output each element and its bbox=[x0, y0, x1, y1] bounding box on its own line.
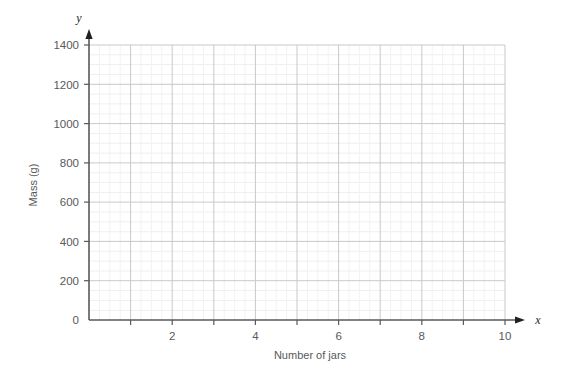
canvas-background bbox=[0, 0, 571, 380]
x-axis-title: Number of jars bbox=[274, 349, 347, 361]
chart-figure: 1400 1200 1000 800 600 400 200 0 2 4 6 8… bbox=[0, 0, 571, 380]
y-axis-title: Mass (g) bbox=[27, 164, 39, 207]
y-tick-label-800: 800 bbox=[60, 157, 79, 169]
y-tick-label-1000: 1000 bbox=[53, 118, 79, 130]
x-tick-label-2: 2 bbox=[169, 330, 175, 342]
x-tick-label-10: 10 bbox=[499, 330, 512, 342]
y-tick-label-200: 200 bbox=[60, 275, 79, 287]
y-tick-label-400: 400 bbox=[60, 236, 79, 248]
x-tick-label-8: 8 bbox=[419, 330, 425, 342]
x-tick-label-6: 6 bbox=[335, 330, 341, 342]
graph-canvas: 1400 1200 1000 800 600 400 200 0 2 4 6 8… bbox=[0, 0, 571, 380]
y-axis-name: y bbox=[75, 11, 82, 25]
x-tick-label-4: 4 bbox=[252, 330, 259, 342]
y-tick-label-1400: 1400 bbox=[53, 39, 79, 51]
y-tick-label-600: 600 bbox=[60, 196, 79, 208]
y-tick-label-0: 0 bbox=[73, 314, 79, 326]
x-axis-name: x bbox=[534, 313, 541, 327]
y-tick-label-1200: 1200 bbox=[53, 79, 79, 91]
